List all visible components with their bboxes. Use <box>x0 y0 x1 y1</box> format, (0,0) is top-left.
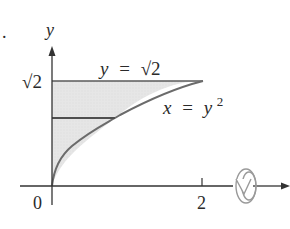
origin-label: 0 <box>33 193 42 213</box>
line-y-sqrt2-label: y = √2 <box>98 58 161 79</box>
y-axis-arrow-icon <box>49 46 56 56</box>
bullet-mark: . <box>2 22 7 42</box>
line-label-eq: = <box>119 58 130 79</box>
y-axis-label: y <box>44 20 54 40</box>
shaded-region <box>52 81 203 186</box>
x-axis-arrow-icon <box>281 183 290 190</box>
diagram-canvas: . y √2 0 2 y = √2 x = y 2 <box>0 0 290 229</box>
parabola-label-lhs: x <box>162 97 172 118</box>
parabola-label: x = y 2 <box>162 94 223 118</box>
line-label-lhs: y <box>98 58 109 79</box>
x-tick-2-label: 2 <box>197 193 206 213</box>
parabola-label-exp: 2 <box>217 94 224 109</box>
y-tick-sqrt2-label: √2 <box>22 71 42 92</box>
line-label-rhs: √2 <box>141 58 161 79</box>
parabola-label-base: y <box>202 97 213 118</box>
parabola-label-eq: = <box>182 97 193 118</box>
